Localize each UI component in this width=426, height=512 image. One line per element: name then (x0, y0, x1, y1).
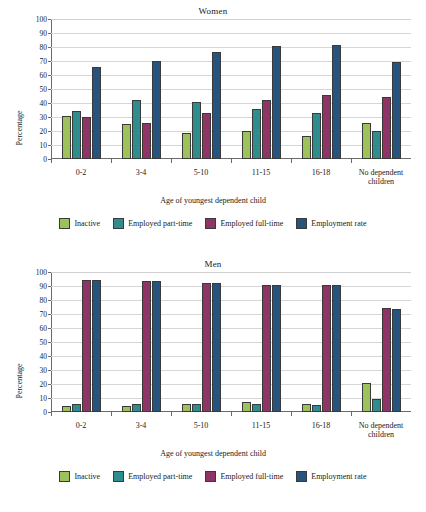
legend-label: Employment rate (311, 472, 366, 481)
y-tick-label: 30 (40, 113, 48, 122)
legend-item-employed-full-time[interactable]: Employed full-time (205, 471, 283, 482)
y-tick-label: 90 (40, 29, 48, 38)
bar-employed-full-time[interactable] (202, 113, 211, 159)
y-tick-label: 70 (40, 57, 48, 66)
x-tick-mark (51, 412, 52, 416)
bar-employed-part-time[interactable] (252, 404, 261, 412)
legend-item-employed-part-time[interactable]: Employed part-time (113, 218, 192, 229)
legend-item-employed-part-time[interactable]: Employed part-time (113, 471, 192, 482)
bar-employed-full-time[interactable] (82, 280, 91, 412)
x-axis-label-women: Age of youngest dependent child (0, 196, 426, 205)
y-tick-label: 40 (40, 99, 48, 108)
y-tick-label: 80 (40, 43, 48, 52)
x-tick-label: 3-4 (111, 412, 171, 446)
bar-inactive[interactable] (362, 383, 371, 412)
x-tick-line1: 16-18 (291, 421, 351, 430)
bar-employed-full-time[interactable] (322, 95, 331, 159)
y-axis-label-men: Percentage (15, 363, 24, 398)
x-axis-label-men: Age of youngest dependent child (0, 449, 426, 458)
bar-group (231, 272, 291, 412)
bar-employment-rate[interactable] (332, 285, 341, 412)
y-tick-label: 0 (43, 155, 47, 164)
x-tick-label: 11-15 (231, 412, 291, 446)
x-tick-label: 0-2 (51, 412, 111, 446)
bar-inactive[interactable] (242, 131, 251, 159)
bar-groups-women (51, 19, 411, 159)
x-tick-line1: 5-10 (171, 421, 231, 430)
bar-inactive[interactable] (182, 133, 191, 159)
y-tick-label: 60 (40, 324, 48, 333)
legend-item-employment-rate[interactable]: Employment rate (296, 471, 366, 482)
y-tick-label: 100 (36, 15, 47, 24)
bar-employment-rate[interactable] (92, 280, 101, 412)
bar-employed-part-time[interactable] (132, 404, 141, 412)
bar-employment-rate[interactable] (212, 283, 221, 413)
bar-employment-rate[interactable] (272, 285, 281, 412)
bar-employment-rate[interactable] (212, 52, 221, 159)
bar-employed-full-time[interactable] (382, 308, 391, 412)
x-tick-label: No dependentchildren (351, 159, 411, 193)
bar-employment-rate[interactable] (92, 67, 101, 159)
y-tick-label: 90 (40, 282, 48, 291)
bar-group (171, 272, 231, 412)
bar-employed-full-time[interactable] (322, 285, 331, 412)
chart-title-men: Men (0, 259, 426, 269)
bar-employment-rate[interactable] (272, 46, 281, 159)
bar-employed-full-time[interactable] (142, 281, 151, 412)
x-tick-mark (231, 412, 232, 416)
bar-employment-rate[interactable] (152, 61, 161, 159)
legend-label: Employed full-time (220, 219, 283, 228)
legend-label: Employment rate (311, 219, 366, 228)
y-tick-label: 80 (40, 296, 48, 305)
bar-employed-full-time[interactable] (82, 117, 91, 159)
plot-area-men: 1009080706050403020100 (51, 272, 411, 412)
bar-employed-full-time[interactable] (142, 123, 151, 159)
x-tick-line1: 11-15 (231, 168, 291, 177)
y-tick-label: 60 (40, 71, 48, 80)
bar-employed-full-time[interactable] (382, 97, 391, 159)
bar-inactive[interactable] (62, 116, 71, 159)
bar-employed-part-time[interactable] (192, 404, 201, 412)
x-tick-line1: 0-2 (51, 168, 111, 177)
legend-item-employment-rate[interactable]: Employment rate (296, 218, 366, 229)
bar-employed-part-time[interactable] (132, 100, 141, 159)
bar-employed-part-time[interactable] (312, 405, 321, 412)
x-tick-line1: 0-2 (51, 421, 111, 430)
legend-item-inactive[interactable]: Inactive (59, 471, 100, 482)
bar-employed-full-time[interactable] (202, 283, 211, 413)
bar-group (291, 272, 351, 412)
bar-inactive[interactable] (362, 123, 371, 159)
bar-inactive[interactable] (122, 124, 131, 159)
bar-employment-rate[interactable] (392, 62, 401, 159)
bar-group (51, 272, 111, 412)
bar-inactive[interactable] (302, 404, 311, 412)
bar-employment-rate[interactable] (392, 309, 401, 412)
legend-item-inactive[interactable]: Inactive (59, 218, 100, 229)
x-tick-mark (291, 412, 292, 416)
bar-employed-part-time[interactable] (72, 111, 81, 159)
bar-employed-part-time[interactable] (372, 399, 381, 412)
bar-employed-part-time[interactable] (312, 113, 321, 159)
bar-employed-full-time[interactable] (262, 100, 271, 160)
legend-men: InactiveEmployed part-timeEmployed full-… (0, 471, 426, 482)
bar-employment-rate[interactable] (332, 45, 341, 159)
bar-employed-part-time[interactable] (192, 102, 201, 159)
y-tick-label: 20 (40, 380, 48, 389)
bar-inactive[interactable] (302, 136, 311, 159)
legend-item-employed-full-time[interactable]: Employed full-time (205, 218, 283, 229)
x-tick-line2: children (351, 177, 411, 186)
x-tick-mark (171, 159, 172, 163)
bar-employed-part-time[interactable] (372, 131, 381, 159)
y-tick-label: 0 (43, 408, 47, 417)
legend-label: Employed part-time (128, 219, 192, 228)
bar-inactive[interactable] (242, 402, 251, 412)
legend-swatch-icon (59, 471, 70, 482)
bar-employed-part-time[interactable] (72, 404, 81, 412)
legend-label: Inactive (74, 472, 100, 481)
bar-employed-part-time[interactable] (252, 109, 261, 159)
x-tick-line1: 16-18 (291, 168, 351, 177)
bar-employed-full-time[interactable] (262, 285, 271, 412)
bar-employment-rate[interactable] (152, 281, 161, 412)
bar-inactive[interactable] (182, 404, 191, 412)
y-tick-label: 40 (40, 352, 48, 361)
